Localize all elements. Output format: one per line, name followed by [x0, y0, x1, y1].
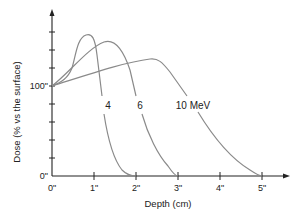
x-tick-label-2: 2" [132, 183, 140, 193]
curve-4mev-lower [104, 114, 136, 176]
curve-6mev-lower [142, 114, 178, 176]
dose-depth-chart: 0" 1" 2" 3" 4" 5" 0" 100" Depth (cm) Dos… [0, 0, 295, 216]
x-tick-label-0: 0" [48, 183, 56, 193]
x-tick-label-4: 4" [216, 183, 224, 193]
series-label-4: 4 [105, 100, 111, 111]
y-tick-label-0: 0" [40, 171, 48, 181]
x-tick-label-1: 1" [90, 183, 98, 193]
curve-10mev-lower [198, 112, 262, 176]
curve-4mev-upper [52, 35, 102, 96]
x-tick-label-5: 5" [258, 183, 266, 193]
x-axis-arrow-icon [283, 174, 290, 179]
y-axis-arrow-icon [50, 9, 55, 16]
curve-10mev-upper [52, 59, 187, 96]
y-axis-label: Dose (% vs the surface) [11, 61, 22, 162]
series-label-10mev: 10 MeV [176, 100, 211, 111]
x-axis-label: Depth (cm) [145, 198, 192, 209]
y-tick-label-100: 100" [30, 81, 48, 91]
x-tick-label-3: 3" [174, 183, 182, 193]
series-label-6: 6 [137, 100, 143, 111]
curve-6mev-upper [52, 41, 136, 96]
